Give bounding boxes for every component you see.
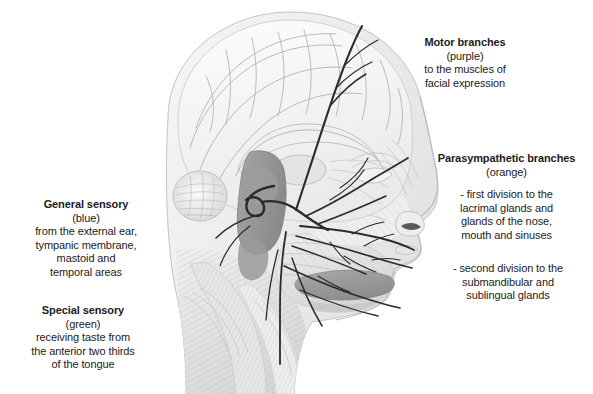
parasympathetic-heading: Parasympathetic branches bbox=[420, 152, 593, 166]
general-sensory-line-2: tympanic membrane, bbox=[6, 239, 166, 253]
motor-line-2: facial expression bbox=[395, 77, 535, 91]
general-sensory-subheading: (blue) bbox=[6, 212, 166, 226]
parasympathetic-line-2: lacrimal glands and bbox=[420, 202, 593, 216]
annotation-parasympathetic-branches: Parasympathetic branches (orange) - firs… bbox=[420, 152, 593, 242]
general-sensory-line-1: from the external ear, bbox=[6, 225, 166, 239]
parasympathetic-second-line-3: sublingual glands bbox=[428, 289, 588, 303]
annotation-special-sensory: Special sensory (green) receiving taste … bbox=[8, 304, 158, 372]
annotation-general-sensory: General sensory (blue) from the external… bbox=[6, 198, 166, 279]
cerebellum bbox=[173, 171, 227, 221]
motor-subheading: (purple) bbox=[395, 50, 535, 64]
general-sensory-line-4: temporal areas bbox=[6, 266, 166, 280]
parasympathetic-line-4: mouth and sinuses bbox=[420, 229, 593, 243]
spacer bbox=[420, 179, 593, 188]
special-sensory-line-3: of the tongue bbox=[8, 358, 158, 372]
motor-heading: Motor branches bbox=[395, 36, 535, 50]
general-sensory-line-3: mastoid and bbox=[6, 252, 166, 266]
general-sensory-heading: General sensory bbox=[6, 198, 166, 212]
special-sensory-line-2: the anterior two thirds bbox=[8, 345, 158, 359]
parasympathetic-second-line-2: submandibular and bbox=[428, 276, 588, 290]
parasympathetic-line-1: - first division to the bbox=[420, 188, 593, 202]
special-sensory-heading: Special sensory bbox=[8, 304, 158, 318]
annotation-parasympathetic-second-division: - second division to the submandibular a… bbox=[428, 262, 588, 303]
figure-canvas: Motor branches (purple) to the muscles o… bbox=[0, 0, 593, 394]
parasympathetic-subheading: (orange) bbox=[420, 166, 593, 180]
motor-line-1: to the muscles of bbox=[395, 63, 535, 77]
special-sensory-subheading: (green) bbox=[8, 318, 158, 332]
parasympathetic-line-3: glands of the nose, bbox=[420, 215, 593, 229]
special-sensory-line-1: receiving taste from bbox=[8, 331, 158, 345]
parasympathetic-second-line-1: - second division to the bbox=[428, 262, 588, 276]
annotation-motor-branches: Motor branches (purple) to the muscles o… bbox=[395, 36, 535, 90]
